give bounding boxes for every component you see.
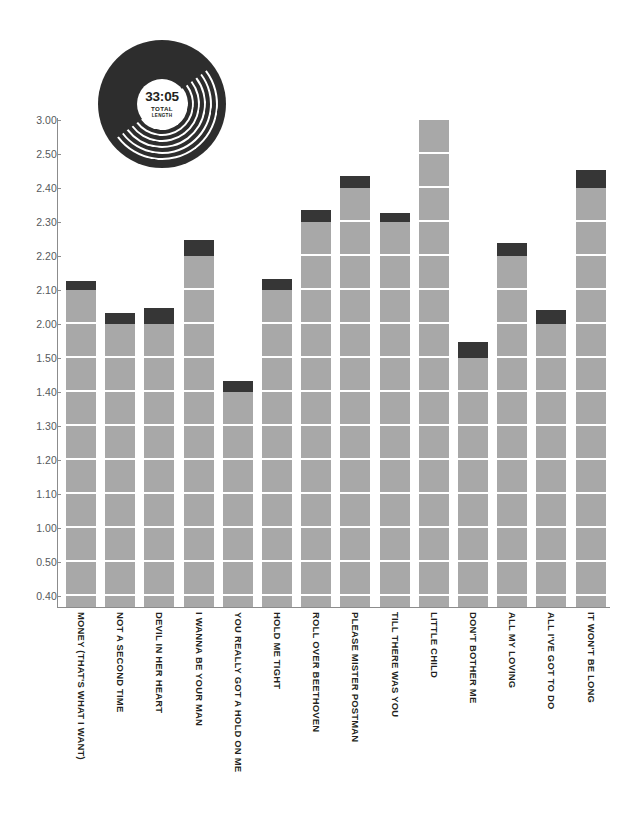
y-tick-2-10: 2.10 xyxy=(0,284,57,296)
bar-segment-divider xyxy=(340,220,370,222)
bar-segment-divider xyxy=(536,492,566,494)
bar-segment-divider xyxy=(144,594,174,596)
bar-segment-divider xyxy=(66,526,96,528)
bar-segment-divider xyxy=(536,594,566,596)
bar-2[interactable] xyxy=(144,308,174,607)
bar-3[interactable] xyxy=(184,240,214,607)
bar-segment-divider xyxy=(419,526,449,528)
bar-segment-divider xyxy=(105,526,135,528)
bar-segment-divider xyxy=(340,288,370,290)
bar-segment-divider xyxy=(340,356,370,358)
bar-segment-divider xyxy=(105,356,135,358)
y-tick-2-30: 2.30 xyxy=(0,216,57,228)
bar-body xyxy=(144,324,174,607)
bar-segment-divider xyxy=(184,390,214,392)
x-axis-tick-labels: MONEY (THAT'S WHAT I WANT)NOT A SECOND T… xyxy=(57,612,610,827)
bar-segment-divider xyxy=(497,492,527,494)
x-label-2: DEVIL IN HER HEART xyxy=(144,612,174,827)
bar-1[interactable] xyxy=(105,313,135,607)
bar-5[interactable] xyxy=(262,279,292,607)
bar-cap-partial xyxy=(223,381,253,392)
bar-body xyxy=(419,120,449,607)
bar-segment-divider xyxy=(576,220,606,222)
bar-segment-divider xyxy=(66,390,96,392)
y-tick-1-10: 1.10 xyxy=(0,488,57,500)
bar-segment-divider xyxy=(66,356,96,358)
bar-segment-divider xyxy=(301,492,331,494)
bar-segment-divider xyxy=(340,526,370,528)
bar-segment-divider xyxy=(419,254,449,256)
bar-segment-divider xyxy=(419,356,449,358)
bar-body xyxy=(301,222,331,607)
bar-0[interactable] xyxy=(66,281,96,607)
y-tick-1-00: 1.00 xyxy=(0,522,57,534)
x-label-13: IT WON'T BE LONG xyxy=(576,612,606,827)
bar-segment-divider xyxy=(576,594,606,596)
bar-segment-divider xyxy=(223,560,253,562)
bar-segment-divider xyxy=(497,322,527,324)
bar-segment-divider xyxy=(576,526,606,528)
bar-segment-divider xyxy=(184,288,214,290)
x-label-9: LITTLE CHILD xyxy=(419,612,449,827)
bar-11[interactable] xyxy=(497,243,527,607)
bar-segment-divider xyxy=(419,424,449,426)
bar-segment-divider xyxy=(458,492,488,494)
bar-segment-divider xyxy=(184,458,214,460)
bar-segment-divider xyxy=(497,424,527,426)
bar-segment-divider xyxy=(458,594,488,596)
bar-body xyxy=(497,256,527,607)
bar-body xyxy=(576,188,606,607)
x-label-5: HOLD ME TIGHT xyxy=(262,612,292,827)
bar-7[interactable] xyxy=(340,176,370,607)
y-tick-1-20: 1.20 xyxy=(0,454,57,466)
bar-segment-divider xyxy=(262,424,292,426)
bar-segment-divider xyxy=(184,560,214,562)
bar-segment-divider xyxy=(419,594,449,596)
bar-segment-divider xyxy=(380,594,410,596)
bar-segment-divider xyxy=(536,390,566,392)
bar-cap-partial xyxy=(380,213,410,222)
bar-segment-divider xyxy=(536,560,566,562)
bar-segment-divider xyxy=(144,560,174,562)
plot-area xyxy=(57,118,610,607)
bar-segment-divider xyxy=(144,458,174,460)
bar-12[interactable] xyxy=(536,310,566,607)
bar-cap-partial xyxy=(262,279,292,290)
bar-segment-divider xyxy=(66,560,96,562)
bar-cap-partial xyxy=(458,342,488,358)
bar-segment-divider xyxy=(576,390,606,392)
bar-cap-partial xyxy=(144,308,174,324)
bar-segment-divider xyxy=(419,152,449,154)
x-label-12: ALL I'VE GOT TO DO xyxy=(536,612,566,827)
bar-13[interactable] xyxy=(576,170,606,607)
x-label-6: ROLL OVER BEETHOVEN xyxy=(301,612,331,827)
bar-10[interactable] xyxy=(458,342,488,607)
bar-segment-divider xyxy=(419,458,449,460)
bar-segment-divider xyxy=(301,288,331,290)
bar-4[interactable] xyxy=(223,381,253,607)
x-label-8: TILL THERE WAS YOU xyxy=(380,612,410,827)
bar-segment-divider xyxy=(536,424,566,426)
bar-segment-divider xyxy=(340,560,370,562)
y-tick-2-00: 2.00 xyxy=(0,318,57,330)
bar-segment-divider xyxy=(458,424,488,426)
bar-segment-divider xyxy=(144,526,174,528)
bar-segment-divider xyxy=(536,526,566,528)
x-label-1: NOT A SECOND TIME xyxy=(105,612,135,827)
bar-segment-divider xyxy=(66,458,96,460)
total-length-value: 33:05 xyxy=(145,90,179,104)
bar-9[interactable] xyxy=(419,120,449,607)
bar-segment-divider xyxy=(262,322,292,324)
bar-segment-divider xyxy=(576,254,606,256)
bar-segment-divider xyxy=(184,594,214,596)
bar-segment-divider xyxy=(497,356,527,358)
x-axis-line xyxy=(57,607,610,608)
bar-6[interactable] xyxy=(301,210,331,607)
bar-segment-divider xyxy=(576,322,606,324)
bar-segment-divider xyxy=(105,390,135,392)
bar-segment-divider xyxy=(419,560,449,562)
bar-8[interactable] xyxy=(380,213,410,607)
bar-segment-divider xyxy=(184,356,214,358)
bar-segment-divider xyxy=(380,560,410,562)
total-length-caption-line1: TOTAL xyxy=(151,105,173,113)
